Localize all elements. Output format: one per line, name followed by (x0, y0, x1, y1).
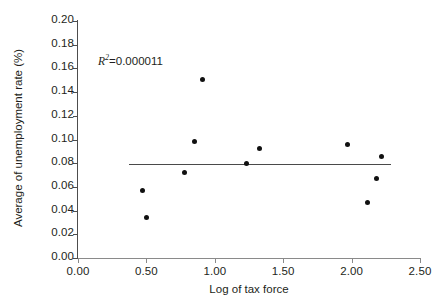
y-tick-label: 0.06 (51, 179, 74, 191)
x-tick-label: 1.50 (272, 265, 295, 277)
y-tick-label: 0.02 (51, 226, 74, 238)
y-tick-label: 0.08 (51, 155, 74, 167)
y-tick-label: 0.10 (51, 132, 74, 144)
data-point (140, 188, 145, 193)
x-tick-mark (352, 258, 353, 263)
r-squared-value: =0.000011 (109, 55, 163, 67)
x-tick-label: 2.00 (340, 265, 363, 277)
y-tick-label: 0.14 (51, 84, 74, 96)
y-axis-title: Average of unemployment rate (%) (12, 28, 24, 248)
y-tick-label: 0.20 (51, 13, 74, 25)
x-tick-label: 0.50 (135, 265, 158, 277)
r-squared-symbol: R (98, 55, 105, 67)
data-point (365, 200, 370, 205)
x-tick-label: 0.00 (67, 265, 90, 277)
x-tick-mark (78, 258, 79, 263)
x-tick-mark (215, 258, 216, 263)
x-tick-label: 1.00 (203, 265, 226, 277)
data-point (257, 146, 262, 151)
r-squared-annotation: R2=0.000011 (98, 53, 163, 67)
x-tick-mark (420, 258, 421, 263)
y-tick-label: 0.00 (51, 250, 74, 262)
x-tick-mark (146, 258, 147, 263)
y-tick-label: 0.16 (51, 60, 74, 72)
regression-trend-line (129, 164, 390, 166)
y-tick-label: 0.18 (51, 37, 74, 49)
y-tick-label: 0.12 (51, 108, 74, 120)
x-axis-title: Log of tax force (78, 283, 420, 295)
data-point (374, 176, 379, 181)
chart-figure: 0.000.020.040.060.080.100.120.140.160.18… (0, 0, 446, 304)
x-axis-line (77, 258, 421, 259)
x-tick-label: 2.50 (409, 265, 432, 277)
y-tick-label: 0.04 (51, 203, 74, 215)
data-point (200, 77, 205, 82)
x-tick-mark (283, 258, 284, 263)
